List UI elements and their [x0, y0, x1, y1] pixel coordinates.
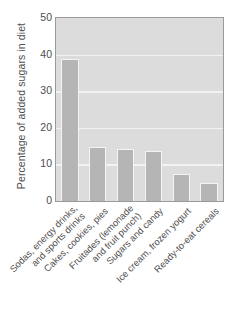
x-axis-category-labels: Sodas, energy drinks,and sports drinksCa… [0, 202, 235, 320]
bar [61, 59, 78, 201]
bar [89, 147, 106, 201]
bar [200, 183, 217, 201]
bar-series [56, 18, 223, 201]
y-axis-tick-label: 30 [30, 85, 52, 95]
y-axis-title: Percentage of added sugars in diet [15, 6, 27, 206]
y-axis-tick-label: 10 [30, 158, 52, 168]
y-axis-tick-label: 40 [30, 49, 52, 59]
y-axis-tick-label: 50 [30, 12, 52, 22]
bar [173, 174, 190, 201]
y-axis-tick-label: 20 [30, 122, 52, 132]
bar-chart-figure: Percentage of added sugars in diet 50403… [0, 0, 235, 320]
bar [145, 151, 162, 202]
bar [117, 149, 134, 201]
plot-area [55, 17, 224, 202]
